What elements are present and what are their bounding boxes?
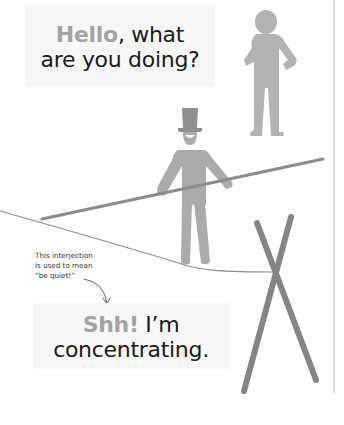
curved-arrow-icon <box>84 279 110 304</box>
page-divider-rule <box>333 0 335 393</box>
speech-bubble-hello: Hello, what are you doing? <box>25 5 215 86</box>
annotation-note: This interjection is used to mean “be qu… <box>35 251 125 281</box>
annotation-line-1: This interjection <box>35 251 125 261</box>
annotation-line-3: “be quiet!” <box>35 271 125 281</box>
illustration-page: Hello, what are you doing? This interjec… <box>0 0 344 425</box>
speech-line-1: Shh! I’m <box>33 312 229 337</box>
speech-text: , what <box>118 22 184 47</box>
speech-line-1: Hello, what <box>25 22 215 47</box>
speech-line-2: are you doing? <box>25 47 215 72</box>
annotation-line-2: is used to mean <box>35 261 125 271</box>
standing-person-icon <box>244 10 297 136</box>
speech-line-2: concentrating. <box>33 337 229 362</box>
speech-text: I’m <box>139 312 180 337</box>
rope-support-poles <box>244 217 316 391</box>
top-hat-icon <box>178 108 203 132</box>
interjection-shh: Shh! <box>83 312 139 337</box>
interjection-hello: Hello <box>56 22 118 47</box>
speech-bubble-shh: Shh! I’m concentrating. <box>33 303 229 369</box>
